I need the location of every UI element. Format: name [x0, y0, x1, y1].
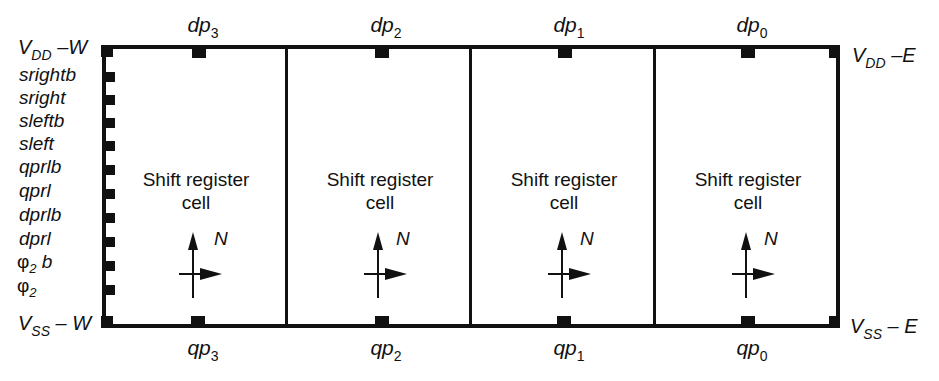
orientation-compass-icon	[545, 230, 605, 302]
qp1-label: qp1	[553, 337, 584, 367]
cell-0-title: Shift registercell	[656, 168, 840, 214]
qp0-label: qp0	[736, 337, 767, 367]
vdd-w-label: VDD –W	[18, 36, 87, 66]
dp0-pad	[741, 47, 755, 58]
signal-label-sleftb: sleftb	[19, 111, 64, 130]
vdd-e-label: VDD –E	[852, 44, 916, 74]
qp3-pad	[191, 316, 205, 326]
cell-2-title: Shift registercell	[288, 168, 472, 214]
vss-w-pad	[101, 316, 113, 328]
dp3-label: dp3	[187, 14, 218, 44]
left-pin-sleft	[104, 141, 115, 151]
dp1-pad	[558, 47, 572, 58]
qp1-pad	[557, 316, 571, 326]
north-label: N	[214, 228, 228, 250]
left-pin-dprl	[104, 237, 115, 247]
cell-3-title: Shift registercell	[104, 168, 288, 214]
dp2-label: dp2	[370, 14, 401, 44]
dp3-pad	[192, 47, 206, 58]
vss-e-pad	[829, 316, 840, 328]
vss-w-label: VSS – W	[18, 312, 91, 342]
signal-label-phi2: φ2	[17, 276, 37, 302]
left-pin-srightb	[104, 72, 115, 82]
vss-e-label: VSS – E	[850, 315, 918, 345]
dp0-label: dp0	[736, 14, 767, 44]
left-pin-sleftb	[104, 118, 115, 128]
signal-label-sright: sright	[19, 88, 65, 107]
north-label: N	[764, 228, 778, 250]
vdd-e-pad	[829, 45, 840, 58]
dp2-pad	[375, 47, 389, 58]
qp2-pad	[375, 316, 389, 326]
signal-label-dprl: dprl	[19, 229, 51, 248]
signal-label-srightb: srightb	[19, 65, 76, 84]
qp3-label: qp3	[187, 337, 218, 367]
shift-register-floorplan: VDD –W VSS – W VDD –E VSS – E srightb sr…	[0, 0, 939, 381]
qp0-pad	[741, 316, 755, 326]
cell-1-title: Shift registercell	[472, 168, 656, 214]
left-pin-phi2b	[104, 261, 115, 271]
qp2-label: qp2	[370, 337, 401, 367]
signal-label-qprlb: qprlb	[19, 157, 61, 176]
orientation-compass-icon	[729, 230, 789, 302]
left-pin-dprlb	[104, 213, 115, 223]
left-pin-sright	[104, 95, 115, 105]
orientation-compass-icon	[361, 230, 421, 302]
vdd-w-pad	[101, 45, 113, 57]
left-pin-phi2	[104, 285, 115, 295]
signal-label-sleft: sleft	[19, 134, 54, 153]
signal-label-qprl: qprl	[19, 181, 51, 200]
dp1-label: dp1	[553, 14, 584, 44]
north-label: N	[580, 228, 594, 250]
north-label: N	[396, 228, 410, 250]
signal-label-dprlb: dprlb	[19, 205, 61, 224]
